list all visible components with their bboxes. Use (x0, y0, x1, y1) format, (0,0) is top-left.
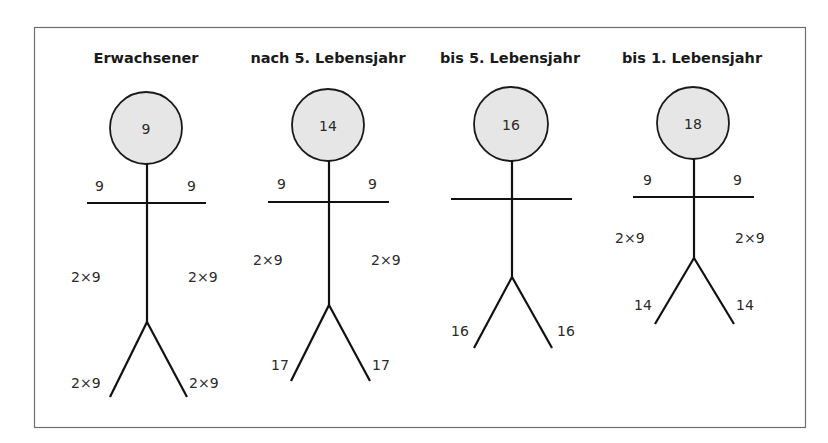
leg-right-value: 16 (557, 323, 575, 339)
arm-left-value: 9 (643, 172, 652, 188)
arm-right-value: 9 (733, 172, 742, 188)
figure-title: bis 5. Lebensjahr (440, 50, 581, 66)
left-leg-line (474, 277, 512, 348)
right-leg-line (147, 322, 187, 397)
figure-after-age-5: nach 5. Lebensjahr 14 9 9 2×9 2×9 17 17 (250, 50, 406, 381)
leg-right-value: 14 (736, 297, 754, 313)
arm-right-value: 9 (187, 178, 196, 194)
figure-adult: Erwachsener 9 9 9 2×9 2×9 2×9 2×9 (71, 50, 219, 397)
trunk-back-value: 2×9 (735, 230, 765, 246)
head-value: 18 (684, 116, 702, 132)
arm-left-value: 9 (277, 176, 286, 192)
figure-until-age-5: bis 5. Lebensjahr 16 16 16 (440, 50, 581, 348)
arm-left-value: 9 (95, 178, 104, 194)
left-leg-line (655, 258, 694, 324)
leg-left-value: 16 (451, 323, 469, 339)
leg-left-value: 17 (271, 357, 289, 373)
right-leg-line (512, 277, 552, 348)
right-leg-line (329, 305, 370, 381)
figure-title: nach 5. Lebensjahr (250, 50, 406, 66)
head-value: 14 (319, 118, 337, 134)
figure-until-age-1: bis 1. Lebensjahr 18 9 9 2×9 2×9 14 14 (615, 50, 765, 324)
trunk-front-value: 2×9 (71, 269, 101, 285)
leg-right-value: 2×9 (189, 375, 219, 391)
right-leg-line (694, 258, 734, 324)
left-leg-line (110, 322, 147, 397)
rule-of-nines-diagram: Erwachsener 9 9 9 2×9 2×9 2×9 2×9 nach 5… (0, 0, 828, 443)
leg-left-value: 2×9 (71, 375, 101, 391)
left-leg-line (291, 305, 329, 381)
trunk-front-value: 2×9 (615, 230, 645, 246)
head-value: 16 (502, 117, 520, 133)
trunk-back-value: 2×9 (188, 269, 218, 285)
arm-right-value: 9 (368, 176, 377, 192)
trunk-front-value: 2×9 (253, 252, 283, 268)
figure-title: Erwachsener (94, 50, 200, 66)
trunk-back-value: 2×9 (371, 252, 401, 268)
figure-title: bis 1. Lebensjahr (622, 50, 763, 66)
leg-right-value: 17 (372, 357, 390, 373)
leg-left-value: 14 (634, 297, 652, 313)
head-value: 9 (142, 121, 151, 137)
